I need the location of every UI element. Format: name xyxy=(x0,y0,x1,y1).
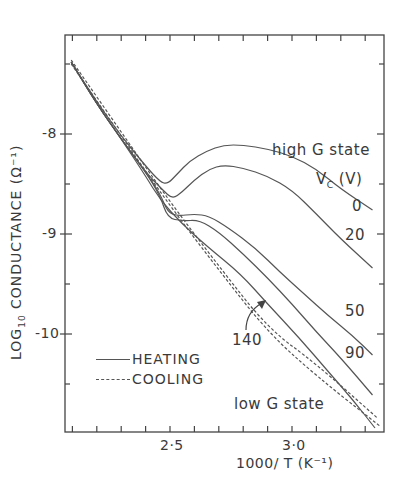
annotation-high-g-state: high G state xyxy=(272,141,370,159)
vc-sub: C xyxy=(327,180,334,190)
legend-dashed-line-icon xyxy=(96,379,130,380)
curve-label-140: 140 xyxy=(232,331,262,349)
y-axis-label-log: LOG xyxy=(8,328,24,360)
y-axis-label-sub: 10 xyxy=(17,314,27,327)
curve-label-50: 50 xyxy=(345,302,365,320)
legend-cooling: COOLING xyxy=(96,371,204,387)
y-axis-label: LOG10 CONDUCTANCE (Ω⁻¹) xyxy=(8,145,27,360)
legend-solid-line-icon xyxy=(96,359,130,360)
curve-vc-50 xyxy=(71,62,372,355)
vc-prefix: V xyxy=(316,170,327,188)
x-tick-label-3-0: 3·0 xyxy=(282,437,306,453)
x-tick-label-2-5: 2·5 xyxy=(160,437,184,453)
y-tick-label-minus9: -9 xyxy=(42,225,57,241)
curve-vc-20 xyxy=(71,62,372,268)
curve-label-90: 90 xyxy=(345,344,365,362)
y-tick-label-minus10: -10 xyxy=(35,325,59,341)
curve-label-0: 0 xyxy=(352,197,362,215)
curve-label-20: 20 xyxy=(345,226,365,244)
annotation-vc: VC (V) xyxy=(316,170,362,190)
x-axis-label: 1000/ T (K⁻¹) xyxy=(236,455,333,471)
y-tick-label-minus8: -8 xyxy=(42,125,57,141)
legend-heating-label: HEATING xyxy=(132,351,201,367)
annotation-low-g-state: low G state xyxy=(234,395,324,413)
legend-heating: HEATING xyxy=(96,351,201,367)
vc-unit: (V) xyxy=(334,170,363,188)
chart-plot xyxy=(0,0,413,493)
y-axis-label-rest: CONDUCTANCE (Ω⁻¹) xyxy=(8,145,24,315)
curve-vc-90 xyxy=(71,62,372,395)
legend-cooling-label: COOLING xyxy=(132,371,204,387)
